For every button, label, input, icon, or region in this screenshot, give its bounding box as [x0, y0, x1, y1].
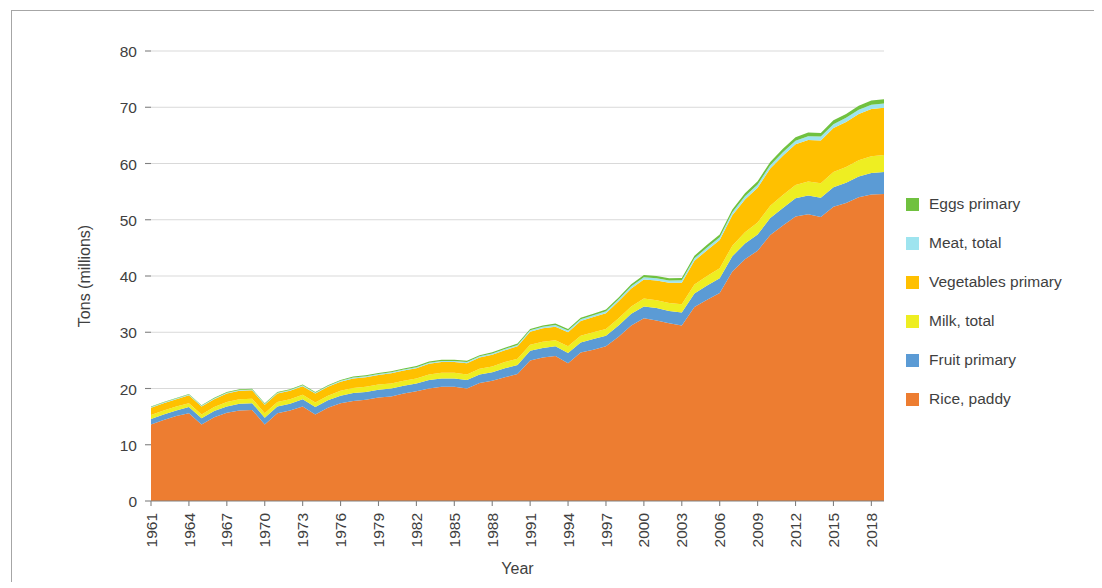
y-tick-labels: 01020304050607080	[120, 43, 138, 510]
chart-figure: 01020304050607080 1961196419671970197319…	[0, 0, 1102, 588]
legend-label: Fruit primary	[929, 351, 1016, 368]
y-tick-label: 50	[120, 212, 138, 229]
y-tick-label: 20	[120, 381, 138, 398]
y-tick-label: 80	[120, 43, 138, 60]
x-tick-label: 1985	[446, 513, 463, 547]
legend-swatch	[906, 315, 919, 328]
x-tick-label: 1967	[218, 513, 235, 547]
plot-area: 01020304050607080 1961196419671970197319…	[0, 0, 1102, 588]
legend-item[interactable]: Rice, paddy	[906, 390, 1011, 407]
legend-item[interactable]: Meat, total	[906, 234, 1001, 251]
x-tick-label: 1991	[522, 513, 539, 547]
legend-label: Eggs primary	[929, 195, 1021, 212]
legend-item[interactable]: Fruit primary	[906, 351, 1016, 368]
x-tick-label: 2006	[711, 513, 728, 547]
y-tick-label: 0	[128, 493, 137, 510]
x-tick-label: 2012	[787, 513, 804, 547]
y-tick-label: 40	[120, 268, 138, 285]
x-tick-label: 1988	[484, 513, 501, 547]
x-tick-label: 1973	[294, 513, 311, 547]
legend-item[interactable]: Vegetables primary	[906, 273, 1062, 290]
legend-item[interactable]: Eggs primary	[906, 195, 1021, 212]
x-tick-label: 2015	[825, 513, 842, 547]
legend-label: Rice, paddy	[929, 390, 1011, 407]
x-tick-label: 2009	[749, 513, 766, 547]
y-tick-label: 30	[120, 324, 138, 341]
legend-label: Vegetables primary	[929, 273, 1062, 290]
x-tick-label: 1982	[408, 513, 425, 547]
x-tick-label: 2003	[673, 513, 690, 547]
x-tick-label: 1979	[370, 513, 387, 547]
legend-item[interactable]: Milk, total	[906, 312, 994, 329]
y-tick-label: 10	[120, 437, 138, 454]
x-tick-label: 2000	[635, 513, 652, 548]
x-tick-label: 1964	[180, 513, 197, 548]
x-tick-label: 2018	[863, 513, 880, 547]
legend: Eggs primaryMeat, totalVegetables primar…	[906, 195, 1062, 407]
legend-swatch	[906, 393, 919, 406]
legend-swatch	[906, 276, 919, 289]
legend-swatch	[906, 354, 919, 367]
area-series-group	[151, 99, 884, 501]
x-tick-labels: 1961196419671970197319761979198219851988…	[143, 513, 880, 548]
y-axis-title: Tons (millions)	[76, 225, 93, 327]
x-tick-label: 1997	[598, 513, 615, 547]
legend-label: Meat, total	[929, 234, 1001, 251]
legend-swatch	[906, 198, 919, 211]
x-tick-label: 1970	[256, 513, 273, 548]
x-tick-label: 1976	[332, 513, 349, 547]
y-tick-label: 60	[120, 156, 138, 173]
stacked-area-chart: 01020304050607080 1961196419671970197319…	[0, 0, 1102, 588]
legend-label: Milk, total	[929, 312, 994, 329]
x-axis-title: Year	[501, 560, 534, 577]
x-tick-label: 1994	[560, 513, 577, 548]
y-tick-label: 70	[120, 99, 138, 116]
x-tick-label: 1961	[143, 513, 160, 547]
legend-swatch	[906, 237, 919, 250]
